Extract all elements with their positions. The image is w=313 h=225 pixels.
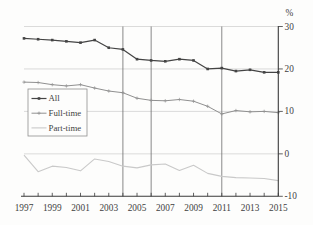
series-marker-square	[79, 41, 82, 44]
series-marker-plus	[79, 83, 82, 86]
x-tick-label-1999: 1999	[43, 203, 62, 213]
series-marker-square	[136, 58, 139, 61]
series-marker-square	[51, 39, 54, 42]
legend-label-full-time: Full-time	[49, 108, 82, 118]
legend: AllFull-timePart-time	[28, 89, 87, 136]
x-tick-label-2011: 2011	[213, 203, 232, 213]
series-marker-plus	[262, 110, 265, 113]
y-tick-label--10: -10	[285, 191, 298, 201]
series-marker-plus	[248, 110, 251, 113]
series-marker-square	[206, 68, 209, 71]
x-tick-label-2005: 2005	[128, 203, 147, 213]
series-marker-plus	[178, 98, 181, 101]
y-axis-unit-label: %	[286, 8, 294, 18]
line-chart: 1997199920012003200520072009201120132015…	[0, 0, 313, 225]
x-tick-label-2001: 2001	[71, 203, 90, 213]
x-tick-label-2007: 2007	[156, 203, 175, 213]
legend-label-all: All	[49, 93, 61, 103]
series-marker-square	[37, 38, 40, 41]
series-marker-square	[150, 59, 153, 62]
series-marker-square	[220, 67, 223, 70]
series-marker-plus	[121, 91, 124, 94]
series-marker-plus	[65, 84, 68, 87]
series-marker-square	[178, 58, 181, 61]
x-tick-label-2015: 2015	[269, 203, 288, 213]
series-marker-square	[93, 39, 96, 42]
x-tick-label-2003: 2003	[99, 203, 118, 213]
series-marker-plus	[107, 89, 110, 92]
series-marker-plus	[36, 81, 39, 84]
series-marker-square	[235, 70, 238, 73]
y-tick-label-30: 30	[285, 22, 295, 32]
y-tick-label-10: 10	[285, 106, 295, 116]
series-marker-square	[122, 48, 125, 51]
series-marker-plus	[51, 83, 54, 86]
x-tick-label-1997: 1997	[15, 203, 34, 213]
series-marker-plus	[149, 99, 152, 102]
y-tick-label-0: 0	[285, 149, 290, 159]
series-marker-plus	[135, 97, 138, 100]
x-tick-label-2009: 2009	[184, 203, 203, 213]
chart-figure: 1997199920012003200520072009201120132015…	[0, 0, 313, 225]
series-marker-square	[263, 71, 266, 74]
series-marker-square	[107, 46, 110, 49]
series-marker-plus	[164, 99, 167, 102]
series-marker-plus	[93, 86, 96, 89]
series-marker-square	[164, 60, 167, 63]
legend-label-part-time: Part-time	[49, 123, 82, 133]
series-marker-square	[23, 37, 26, 40]
series-marker-plus	[192, 100, 195, 103]
series-marker-square	[249, 68, 252, 71]
series-marker-plus	[22, 80, 25, 83]
legend-marker-square	[38, 97, 41, 100]
y-tick-label-20: 20	[285, 64, 295, 74]
series-marker-square	[192, 59, 195, 62]
series-marker-square	[65, 40, 68, 43]
x-tick-label-2013: 2013	[241, 203, 260, 213]
